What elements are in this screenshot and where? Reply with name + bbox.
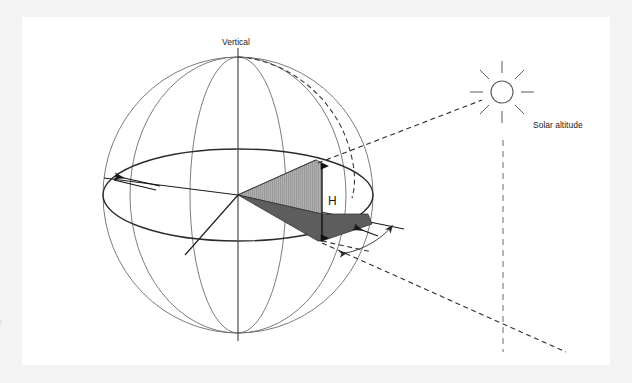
left-edge-text-fragment: r [0, 317, 2, 327]
sun-icon [470, 61, 534, 123]
radius-to-west-point [104, 178, 238, 195]
sun-ray-nw [480, 70, 489, 79]
sun-ray-sw [480, 105, 489, 114]
solar-altitude-label: Solar altitude [533, 120, 583, 130]
west-point-pointer-arrow [115, 176, 160, 186]
shaded-solar-triangles [238, 160, 372, 241]
sun-disc [491, 81, 513, 103]
height-label: H [328, 194, 337, 208]
radius-to-south-point [185, 195, 238, 255]
celestial-sphere-diagram: H Vertical So [0, 0, 632, 383]
ray-shadow-direction [322, 243, 566, 352]
angle-pointer-arrow [354, 227, 378, 236]
sun-ray-ne [515, 70, 524, 79]
ray-to-sun [318, 100, 482, 163]
sun-ray-se [515, 105, 524, 114]
figure-root: H Vertical So [0, 0, 632, 383]
shaded-triangle-lower-wing [322, 214, 372, 241]
vertical-label: Vertical [222, 37, 250, 47]
